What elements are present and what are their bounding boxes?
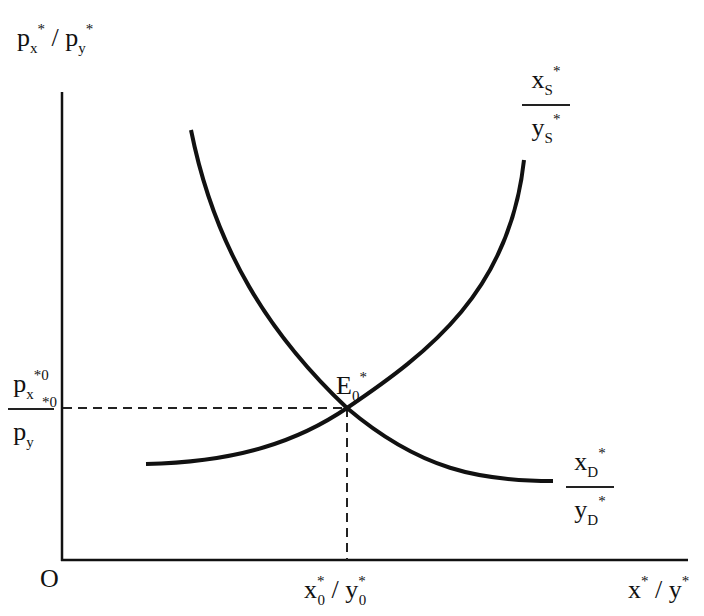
equilibrium-quantity-label: x*0 / y*0 [304, 574, 366, 608]
equilibrium-label: E0* [336, 370, 367, 404]
supply-curve [146, 160, 524, 464]
y-axis-label: px* / py* [17, 22, 93, 56]
demand-curve [191, 130, 553, 481]
supply-curve-label: xS* yS* [522, 64, 570, 146]
demand-curve-label: xD* yD* [566, 446, 614, 528]
origin-label: O [40, 566, 59, 592]
price-den-superscript: *0 [42, 395, 57, 410]
x-axis-label: x* / y* [628, 574, 689, 603]
